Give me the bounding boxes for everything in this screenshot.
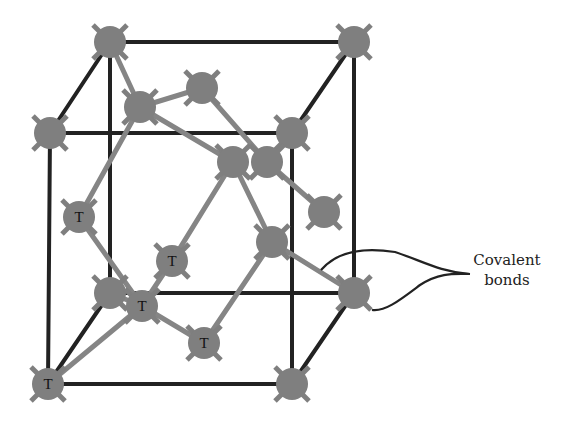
atom-circle <box>186 72 218 104</box>
atom-front-bl: T <box>31 367 65 401</box>
atom-circle <box>217 146 249 178</box>
atom-tag-label: T <box>74 209 83 225</box>
atom-back-bl <box>93 276 127 310</box>
atom-tag-label: T <box>167 253 176 269</box>
atom-inner-t3: T <box>187 326 221 360</box>
atom-tag-label: T <box>199 335 208 351</box>
atom-circle <box>124 91 156 123</box>
covalent-bonds-label: Covalent bonds <box>462 250 552 290</box>
atom-circle <box>256 226 288 258</box>
label-line-2: bonds <box>462 270 552 290</box>
atom-inner-t1: T <box>155 244 189 278</box>
atom-tag-label: T <box>137 298 146 314</box>
atom-circle <box>94 26 126 58</box>
atom-back-tl <box>93 25 127 59</box>
atom-back-br <box>337 276 371 310</box>
atom-inner-t2: T <box>125 289 159 323</box>
atom-circle <box>308 196 340 228</box>
atom-top-face-b <box>185 71 219 105</box>
atom-circle <box>338 26 370 58</box>
atom-circle <box>276 368 308 400</box>
atom-circle <box>276 117 308 149</box>
diamond-lattice-diagram: TTTTT <box>0 0 575 426</box>
atom-circle <box>338 277 370 309</box>
atom-center-a <box>216 145 250 179</box>
atom-left-face: T <box>62 200 96 234</box>
label-line-1: Covalent <box>462 250 552 270</box>
atom-inner-c <box>255 225 289 259</box>
atom-tag-label: T <box>43 376 52 392</box>
atom-circle <box>94 277 126 309</box>
atom-center-b <box>250 145 284 179</box>
atom-circle <box>251 146 283 178</box>
atom-circle <box>34 117 66 149</box>
atom-top-face-a <box>123 90 157 124</box>
atom-back-tr <box>337 25 371 59</box>
atom-right-face <box>307 195 341 229</box>
atom-front-br <box>275 367 309 401</box>
atom-front-tr <box>275 116 309 150</box>
atom-front-tl <box>33 116 67 150</box>
